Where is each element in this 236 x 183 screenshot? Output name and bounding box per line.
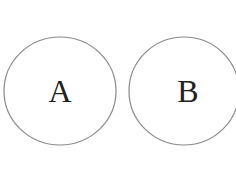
circle-a-label: A bbox=[48, 73, 71, 109]
diagram-canvas: A B bbox=[0, 0, 236, 183]
circle-b-label: B bbox=[177, 73, 198, 109]
